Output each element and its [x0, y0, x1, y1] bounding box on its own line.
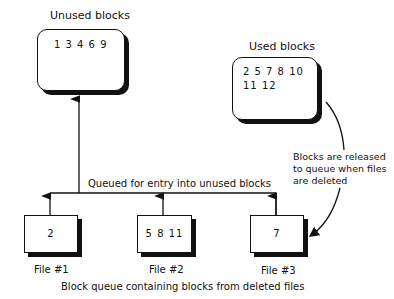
file-2-box: 5 8 11: [137, 215, 192, 253]
file-2-label: File #2: [149, 264, 184, 275]
used-blocks-title: Used blocks: [249, 40, 315, 53]
file-3-label: File #3: [261, 265, 296, 276]
file-1-values: 2: [25, 228, 77, 239]
annotation-line-1: Blocks are released: [293, 151, 386, 163]
queue-label: Queued for entry into unused blocks: [88, 178, 271, 189]
unused-blocks-values: 1 3 4 6 9: [54, 39, 108, 50]
file-3-box: 7: [250, 215, 304, 253]
release-annotation: Blocks are released to queue when files …: [293, 151, 386, 187]
used-blocks-values-line2: 11 12: [243, 80, 277, 91]
used-blocks-box: 2 5 7 8 10 11 12: [232, 57, 318, 120]
file-1-label: File #1: [34, 264, 69, 275]
file-1-box: 2: [24, 215, 78, 253]
unused-blocks-box: 1 3 4 6 9: [37, 29, 125, 91]
annotation-line-3: are deleted: [293, 175, 386, 187]
file-3-values: 7: [251, 228, 303, 239]
unused-blocks-title: Unused blocks: [50, 9, 130, 22]
file-2-values: 5 8 11: [138, 228, 191, 239]
used-blocks-values-line1: 2 5 7 8 10: [243, 66, 304, 77]
annotation-line-2: to queue when files: [293, 163, 386, 175]
caption: Block queue containing blocks from delet…: [61, 281, 304, 292]
